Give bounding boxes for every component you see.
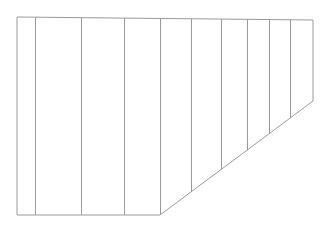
sloped-panel-diagram: [0, 0, 333, 229]
outline-shape: [17, 17, 313, 215]
outline: [17, 17, 313, 215]
vertical-dividers: [36, 17, 291, 215]
